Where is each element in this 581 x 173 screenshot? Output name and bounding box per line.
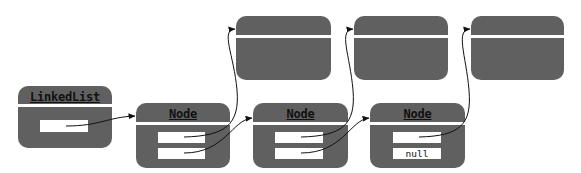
- item-reference-field: [393, 132, 441, 143]
- head-reference-field: [40, 120, 88, 132]
- next-null-field: null: [393, 148, 441, 159]
- data-object-2: [354, 16, 448, 80]
- divider: [253, 122, 348, 125]
- linked-list-diagram: LinkedList Node Node Node null: [0, 0, 581, 173]
- divider: [370, 122, 465, 125]
- node-1: Node: [136, 103, 230, 168]
- divider: [236, 35, 331, 38]
- data-object-1: [236, 16, 331, 80]
- divider: [471, 35, 564, 38]
- data-object-header: [471, 16, 564, 35]
- data-object-header: [236, 16, 331, 35]
- data-object-3: [471, 16, 564, 80]
- node-header: Node: [370, 103, 465, 122]
- node-2: Node: [253, 103, 348, 168]
- divider: [136, 122, 230, 125]
- next-reference-field: [275, 148, 323, 159]
- divider: [354, 35, 448, 38]
- linkedlist-header: LinkedList: [18, 86, 112, 105]
- linkedlist-box: LinkedList: [18, 86, 112, 148]
- data-object-header: [354, 16, 448, 35]
- node-3: Node null: [370, 103, 465, 168]
- node-header: Node: [136, 103, 230, 122]
- divider: [18, 104, 112, 107]
- node-header: Node: [253, 103, 348, 122]
- item-reference-field: [275, 132, 323, 143]
- item-reference-field: [158, 132, 205, 143]
- next-reference-field: [158, 148, 205, 159]
